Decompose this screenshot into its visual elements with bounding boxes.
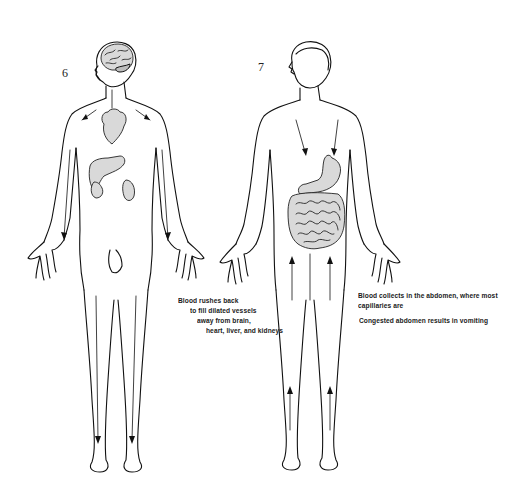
stomach-icon xyxy=(298,155,340,194)
head xyxy=(289,42,331,88)
figure-7-body-illustration xyxy=(0,0,518,497)
intestines-icon xyxy=(288,193,345,249)
